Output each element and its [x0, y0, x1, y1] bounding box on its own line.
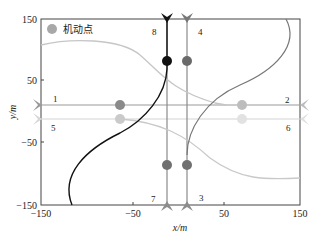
- lane-label-1: 1: [53, 94, 58, 104]
- maneuver-point: [115, 100, 125, 110]
- chevron-up-icon: [161, 201, 173, 211]
- maneuver-point: [237, 114, 247, 124]
- x-tick-label: −50: [125, 208, 141, 219]
- maneuver-points: [115, 56, 247, 170]
- maneuver-point: [162, 160, 172, 170]
- plot-frame: [41, 19, 300, 205]
- trajectory-light-lower: [120, 119, 300, 179]
- trajectory-dark-gray: [187, 19, 290, 155]
- chart: −150 −50 50 150 150 50 −50 −150 x/m y/m: [0, 0, 332, 238]
- lane-label-6: 6: [286, 123, 291, 133]
- chevron-up-icon: [181, 201, 193, 211]
- lane-label-2: 2: [285, 95, 290, 105]
- lane-label-3: 3: [199, 193, 204, 203]
- lane-lines: [41, 19, 300, 205]
- maneuver-point: [237, 100, 247, 110]
- maneuver-point: [115, 114, 125, 124]
- lane-entry-markers: [33, 13, 309, 211]
- chevron-left-icon: [300, 113, 309, 125]
- y-tick-label: −150: [16, 200, 37, 211]
- trajectory-black: [69, 69, 167, 205]
- maneuver-point: [182, 56, 192, 66]
- lane-label-7: 7: [151, 194, 156, 204]
- lane-label-5: 5: [51, 123, 56, 133]
- legend-label: 机动点: [63, 23, 93, 35]
- trajectory-light-upper: [41, 41, 226, 105]
- x-tick-label: 150: [293, 208, 308, 219]
- x-tick-label: 50: [219, 208, 229, 219]
- x-axis-title: x/m: [172, 222, 187, 233]
- trajectories: [41, 19, 300, 205]
- chevron-left-icon: [300, 99, 309, 111]
- y-axis-title: y/m: [7, 105, 18, 120]
- y-tick-label: 50: [27, 75, 37, 86]
- chevron-down-icon: [161, 13, 173, 23]
- y-tick-label: −50: [21, 137, 37, 148]
- lane-label-8: 8: [152, 27, 157, 37]
- lane-label-4: 4: [198, 27, 203, 37]
- maneuver-point: [182, 160, 192, 170]
- legend-marker: [47, 24, 57, 34]
- legend: 机动点: [47, 23, 93, 35]
- maneuver-point: [162, 56, 172, 66]
- chevron-down-icon: [181, 13, 193, 23]
- y-tick-label: 150: [22, 14, 37, 25]
